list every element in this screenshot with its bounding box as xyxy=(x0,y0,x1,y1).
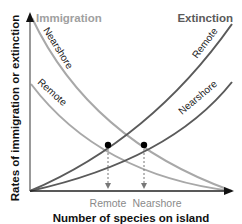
extinction-remote-label: Remote xyxy=(190,25,220,60)
immigration-remote-label: Remote xyxy=(36,76,70,108)
y-axis-title: Rates of immigration or extinction xyxy=(9,15,21,202)
x-tick-remote: Remote xyxy=(90,197,127,209)
x-axis-arrow-icon xyxy=(224,187,234,195)
remote-equilibrium-point xyxy=(105,142,111,148)
x-axis-title: Number of species on island xyxy=(53,212,210,224)
island-biogeography-diagram: Immigration Extinction Nearshore Remote … xyxy=(0,0,242,224)
x-tick-nearshore: Nearshore xyxy=(132,197,181,209)
extinction-label: Extinction xyxy=(177,12,233,24)
y-axis-arrow-icon xyxy=(26,12,34,22)
remote-drop-arrow-icon xyxy=(105,183,111,189)
nearshore-equilibrium-point xyxy=(141,142,147,148)
nearshore-drop-arrow-icon xyxy=(141,183,147,189)
immigration-label: Immigration xyxy=(36,12,102,24)
